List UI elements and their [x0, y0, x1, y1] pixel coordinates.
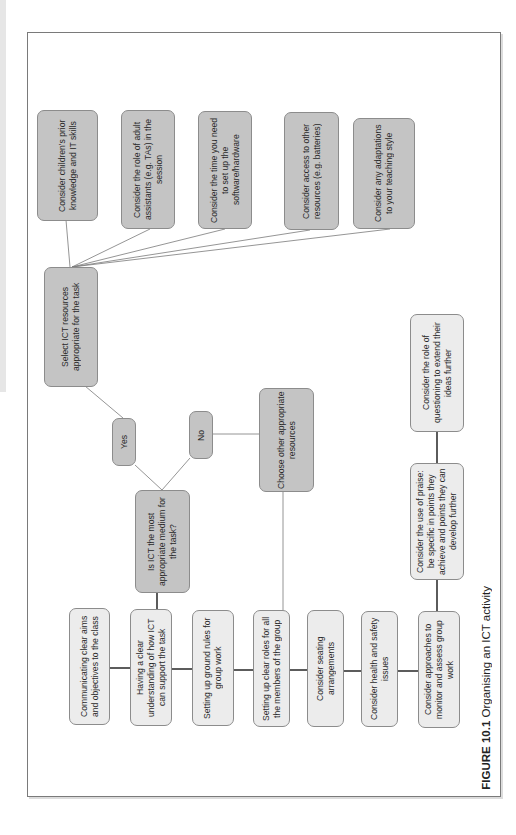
node-label: Yes	[117, 433, 132, 451]
node-teaching-style: Consider any adaptations to your teachin…	[353, 118, 415, 229]
node-monitor-assess: Consider approaches to monitor and asses…	[418, 611, 460, 728]
node-understanding: Having a clear understanding of how ICT …	[130, 609, 172, 726]
caption-text: Organising an ICT activity	[480, 586, 492, 721]
node-adult-assistants: Consider the role of adult assistants (e…	[121, 110, 175, 229]
node-clear-roles: Setting up clear roles for all the membe…	[253, 610, 290, 727]
node-label: Select ICT resources appropriate for the…	[58, 268, 84, 386]
node-health-safety: Consider health and safety issues	[361, 611, 398, 727]
node-label: Consider access to other resources (e.g.…	[299, 113, 325, 229]
node-seating: Consider seating arrangements	[307, 610, 344, 727]
node-label: Consider any adaptations to your teachin…	[371, 119, 397, 228]
node-praise: Consider the use of praise: be specific …	[410, 463, 464, 580]
node-label: Consider the role of questioning to exte…	[419, 315, 456, 431]
node-label: No	[194, 428, 209, 443]
node-label: Consider the use of praise: be specific …	[413, 464, 461, 579]
node-label: Communicating clear aims and objectives …	[77, 609, 103, 724]
node-label: Choose other appropriate resources	[274, 389, 300, 491]
node-select-ict: Select ICT resources appropriate for the…	[44, 267, 98, 387]
node-label: Consider the role of adult assistants (e…	[130, 111, 167, 228]
node-label: Setting up ground rules for group work	[200, 611, 226, 725]
node-label: Consider approaches to monitor and asses…	[421, 612, 458, 727]
node-label: Consider the time you need to set up the…	[207, 112, 244, 228]
node-communicating: Communicating clear aims and objectives …	[69, 608, 110, 725]
node-choose-other: Choose other appropriate resources	[259, 388, 314, 492]
node-label: Consider health and safety issues	[367, 612, 393, 726]
node-label: Having a clear understanding of how ICT …	[133, 610, 170, 725]
node-no: No	[189, 411, 213, 459]
node-label: Is ICT the most appropriate medium for t…	[144, 491, 181, 592]
node-yes: Yes	[112, 418, 136, 466]
node-prior-knowledge: Consider children's prior knowledge and …	[37, 110, 98, 221]
node-label: Setting up clear roles for all the membe…	[259, 611, 285, 726]
node-other-resources: Consider access to other resources (e.g.…	[284, 112, 339, 230]
node-label: Consider children's prior knowledge and …	[55, 111, 81, 220]
node-ground-rules: Setting up ground rules for group work	[192, 610, 234, 726]
node-questioning: Consider the role of questioning to exte…	[410, 314, 464, 432]
node-label: Consider seating arrangements	[313, 611, 339, 726]
node-is-ict: Is ICT the most appropriate medium for t…	[135, 490, 190, 593]
caption-label: FIGURE 10.1	[480, 721, 492, 790]
figure-caption: FIGURE 10.1 Organising an ICT activity	[476, 580, 496, 790]
node-setup-time: Consider the time you need to set up the…	[198, 111, 252, 229]
